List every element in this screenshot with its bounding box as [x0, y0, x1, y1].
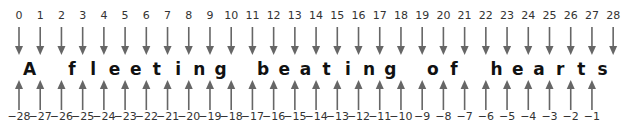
up-arrow-icon	[397, 80, 405, 110]
up-arrow-icon	[546, 80, 554, 110]
up-arrow-icon	[291, 80, 299, 110]
positive-index-label: 20	[436, 9, 450, 22]
negative-index-label: −5	[499, 110, 515, 123]
positive-index-label: 27	[585, 9, 599, 22]
positive-index-label: 4	[100, 9, 107, 22]
up-arrow-icon	[227, 80, 235, 110]
string-character: n	[363, 59, 375, 79]
up-arrow-icon	[524, 80, 532, 110]
negative-index-label: −17	[241, 110, 264, 123]
negative-index-label: −25	[71, 110, 94, 123]
up-arrow-icon	[588, 80, 596, 110]
negative-index-label: −6	[478, 110, 494, 123]
positive-index-label: 22	[479, 9, 493, 22]
positive-index-label: 6	[143, 9, 150, 22]
positive-index-label: 25	[543, 9, 557, 22]
positive-index-label: 1	[37, 9, 44, 22]
string-character: r	[556, 59, 564, 79]
negative-index-label: −16	[262, 110, 285, 123]
string-character: A	[23, 59, 36, 79]
string-character: i	[175, 59, 181, 79]
positive-index-label: 12	[267, 9, 281, 22]
positive-index-label: 26	[564, 9, 578, 22]
positive-index-label: 19	[415, 9, 429, 22]
down-arrow-icon	[36, 27, 44, 55]
negative-index-label: −3	[541, 110, 557, 123]
positive-index-label: 10	[224, 9, 238, 22]
string-index-diagram: 0123456789101112131415161718192021222324…	[0, 0, 627, 127]
negative-index-label: −21	[156, 110, 179, 123]
down-arrow-icon	[503, 27, 511, 55]
down-arrow-icon	[524, 27, 532, 55]
positive-index-label: 8	[185, 9, 192, 22]
negative-index-label: −12	[347, 110, 370, 123]
negative-index-label: −15	[283, 110, 306, 123]
down-arrow-icon	[270, 27, 278, 55]
string-character: n	[193, 59, 205, 79]
positive-index-label: 23	[500, 9, 514, 22]
positive-index-label: 7	[164, 9, 171, 22]
down-arrow-icon	[397, 27, 405, 55]
up-arrow-icon	[333, 80, 341, 110]
negative-index-label: −2	[563, 110, 579, 123]
down-arrow-icon	[439, 27, 447, 55]
negative-index-label: −27	[29, 110, 52, 123]
down-arrow-icon	[164, 27, 172, 55]
negative-index-label: −22	[135, 110, 158, 123]
up-arrow-icon	[100, 80, 108, 110]
positive-index-label: 24	[521, 9, 535, 22]
down-arrow-icon	[248, 27, 256, 55]
string-character: e	[109, 59, 121, 79]
negative-index-label: −13	[326, 110, 349, 123]
down-arrow-icon	[100, 27, 108, 55]
up-arrow-icon	[57, 80, 65, 110]
down-arrow-icon	[567, 27, 575, 55]
positive-index-label: 28	[606, 9, 620, 22]
down-arrow-icon	[227, 27, 235, 55]
string-character: t	[577, 59, 585, 79]
negative-index-label: −7	[457, 110, 473, 123]
down-arrow-icon	[291, 27, 299, 55]
up-arrow-icon	[15, 80, 23, 110]
up-arrow-icon	[355, 80, 363, 110]
down-arrow-icon	[15, 27, 23, 55]
string-character: s	[597, 59, 607, 79]
negative-index-label: −23	[113, 110, 136, 123]
up-arrow-icon	[503, 80, 511, 110]
string-character: b	[257, 59, 269, 79]
string-character: e	[130, 59, 142, 79]
negative-index-label: −4	[520, 110, 536, 123]
down-arrow-icon	[461, 27, 469, 55]
down-arrow-icon	[312, 27, 320, 55]
negative-index-label: −24	[92, 110, 115, 123]
positive-index-label: 21	[458, 9, 472, 22]
up-arrow-icon	[206, 80, 214, 110]
negative-index-label: −14	[304, 110, 327, 123]
string-character: e	[278, 59, 290, 79]
negative-index-label: −1	[584, 110, 600, 123]
negative-index-label: −9	[414, 110, 430, 123]
positive-index-label: 18	[394, 9, 408, 22]
negative-index-label: −20	[177, 110, 200, 123]
down-arrow-icon	[609, 27, 617, 55]
string-character: t	[323, 59, 331, 79]
up-arrow-icon	[164, 80, 172, 110]
up-arrow-icon	[439, 80, 447, 110]
up-arrow-icon	[312, 80, 320, 110]
down-arrow-icon	[142, 27, 150, 55]
negative-index-label: −28	[7, 110, 30, 123]
string-character: l	[90, 59, 96, 79]
string-character: h	[490, 59, 502, 79]
up-arrow-icon	[376, 80, 384, 110]
negative-index-label: −10	[389, 110, 412, 123]
down-arrow-icon	[588, 27, 596, 55]
down-arrow-icon	[206, 27, 214, 55]
negative-index-label: −11	[368, 110, 391, 123]
down-arrow-icon	[376, 27, 384, 55]
down-arrow-icon	[121, 27, 129, 55]
string-character: o	[427, 59, 439, 79]
string-character: t	[153, 59, 161, 79]
up-arrow-icon	[36, 80, 44, 110]
up-arrow-icon	[418, 80, 426, 110]
down-arrow-icon	[79, 27, 87, 55]
